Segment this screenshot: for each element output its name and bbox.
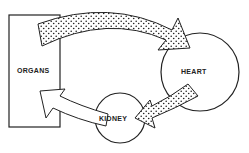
kidney-label: KIDNEY	[99, 115, 127, 122]
circulation-diagram: ORGANS HEART KIDNEY	[0, 0, 249, 153]
heart-label: HEART	[181, 68, 207, 75]
organs-label: ORGANS	[17, 67, 50, 74]
diagram-canvas	[0, 0, 249, 153]
arrow-organs-to-heart	[38, 12, 190, 50]
